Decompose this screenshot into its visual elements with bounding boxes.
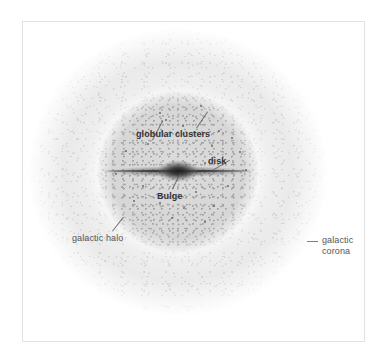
globular-cluster-point [218, 130, 220, 132]
label-globular-clusters: globular clusters [136, 129, 210, 139]
globular-cluster-point [159, 112, 161, 114]
globular-cluster-point [200, 105, 202, 107]
globular-cluster-point [159, 202, 161, 204]
globular-cluster-point [183, 207, 185, 209]
globular-cluster-point [239, 151, 241, 153]
globular-cluster-point [213, 205, 215, 207]
globular-cluster-point [204, 162, 206, 164]
label-galactic-corona-line2: corona [322, 246, 350, 256]
galaxy-structure-figure: globular clusters disk Bulge galactic ha… [0, 0, 381, 359]
globular-cluster-point [147, 143, 149, 145]
globular-cluster-point [231, 137, 233, 139]
globular-cluster-point [195, 191, 197, 193]
globular-cluster-point [227, 185, 229, 187]
label-bulge: Bulge [157, 191, 183, 201]
globular-cluster-point [171, 217, 173, 219]
globular-cluster-point [125, 150, 127, 152]
label-disk: disk [208, 156, 226, 166]
label-galactic-corona-line1: galactic [322, 235, 353, 245]
globular-cluster-point [211, 145, 213, 147]
label-galactic-corona: galactic corona [322, 235, 374, 256]
globular-cluster-point [165, 119, 167, 121]
label-galactic-halo: galactic halo [72, 233, 123, 243]
globular-cluster-point [204, 221, 206, 223]
globular-cluster-point [115, 173, 117, 175]
globular-cluster-point [245, 169, 247, 171]
globular-cluster-point [133, 200, 135, 202]
globular-cluster-point [182, 125, 184, 127]
globular-cluster-point [142, 185, 144, 187]
galactic-corona-leader-dash [307, 241, 318, 242]
